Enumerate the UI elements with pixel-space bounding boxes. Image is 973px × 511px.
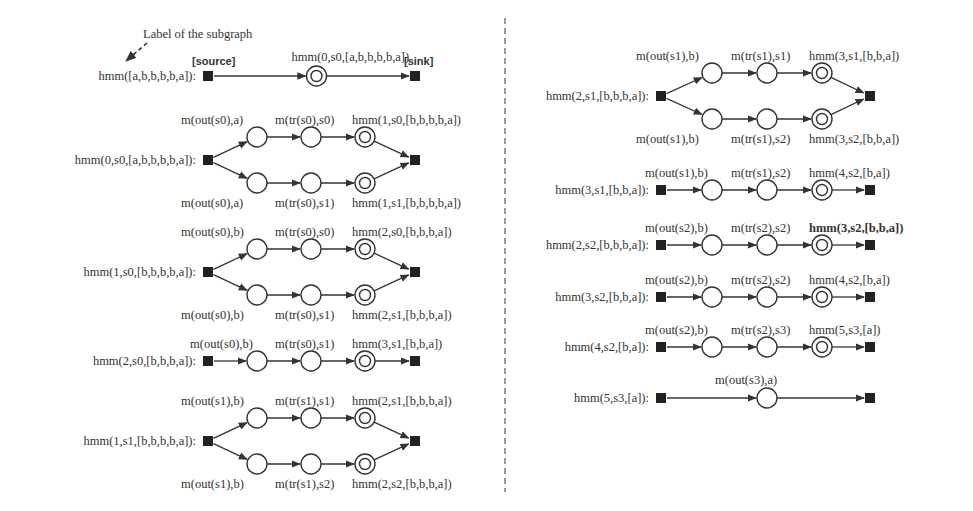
sink-node[interactable] — [865, 292, 875, 302]
subgraph-label: hmm(3,s1,[b,b,a]): — [555, 183, 649, 197]
out-node[interactable] — [702, 109, 722, 129]
subgraph-label: hmm(1,s1,[b,b,b,b,a]): — [84, 434, 196, 448]
out-node[interactable] — [757, 388, 777, 408]
node-label: m(tr(s0),s0) — [275, 225, 334, 239]
source-node[interactable] — [203, 71, 213, 81]
sink-node[interactable] — [410, 155, 420, 165]
subgraph-g9: hmm(4,s2,[b,a]):m(out(s2),b)m(tr(s2),s3)… — [565, 323, 881, 357]
source-node[interactable] — [203, 155, 213, 165]
source-node[interactable] — [203, 356, 213, 366]
source-node[interactable] — [203, 436, 213, 446]
edge-arrow — [831, 99, 864, 115]
source-node[interactable] — [656, 240, 666, 250]
node-label: m(out(s0),b) — [181, 308, 244, 322]
final-node[interactable] — [355, 454, 375, 474]
final-node[interactable] — [355, 408, 375, 428]
final-node[interactable] — [307, 66, 327, 86]
subgraph-g0: hmm([a,b,b,b,b,a]):hmm(0,s0,[a,b,b,b,b,a… — [98, 50, 420, 86]
subgraph-diagram: Label of the subgraph [source] [sink] hm… — [0, 0, 973, 511]
edge-arrow — [374, 163, 409, 179]
tr-node[interactable] — [757, 63, 777, 83]
tr-node[interactable] — [757, 180, 777, 200]
node-label: m(tr(s0),s1) — [275, 337, 334, 351]
out-node[interactable] — [702, 180, 722, 200]
out-node[interactable] — [702, 63, 722, 83]
subgraph-label: hmm([a,b,b,b,b,a]): — [98, 69, 196, 83]
final-node[interactable] — [812, 63, 832, 83]
sink-node[interactable] — [865, 91, 875, 101]
node-label: m(tr(s2),s2) — [731, 221, 790, 235]
source-node[interactable] — [656, 292, 666, 302]
tr-node[interactable] — [301, 285, 321, 305]
final-node[interactable] — [812, 235, 832, 255]
sink-node[interactable] — [865, 185, 875, 195]
node-label: m(tr(s1),s1) — [731, 49, 790, 63]
subgraph-g10: hmm(5,s3,[a]):m(out(s3),a) — [574, 373, 875, 408]
subgraph-label: hmm(2,s0,[b,b,b,a]): — [93, 354, 196, 368]
tr-node[interactable] — [757, 287, 777, 307]
subgraph-label: hmm(4,s2,[b,a]): — [565, 340, 649, 354]
out-node[interactable] — [247, 351, 267, 371]
source-node[interactable] — [203, 267, 213, 277]
edge-arrow — [213, 275, 247, 291]
out-node[interactable] — [702, 235, 722, 255]
final-node[interactable] — [812, 287, 832, 307]
out-node[interactable] — [247, 454, 267, 474]
final-node[interactable] — [355, 285, 375, 305]
subgraph-g5: hmm(2,s1,[b,b,b,a]):m(out(s1),b)m(tr(s1)… — [546, 49, 899, 146]
node-label: m(out(s1),b) — [636, 132, 699, 146]
final-node-label: hmm(2,s2,[b,b,b,a]) — [352, 477, 452, 491]
final-node[interactable] — [355, 239, 375, 259]
out-node[interactable] — [247, 408, 267, 428]
final-node[interactable] — [812, 180, 832, 200]
edge-arrow — [374, 253, 409, 269]
source-node[interactable] — [656, 393, 666, 403]
out-node[interactable] — [247, 285, 267, 305]
final-node[interactable] — [355, 127, 375, 147]
final-node[interactable] — [355, 351, 375, 371]
sink-node[interactable] — [410, 71, 420, 81]
node-label: m(out(s3),a) — [715, 373, 777, 387]
subgraph-label: hmm(5,s3,[a]): — [574, 391, 649, 405]
sink-node[interactable] — [410, 436, 420, 446]
sink-node[interactable] — [865, 342, 875, 352]
source-node[interactable] — [656, 91, 666, 101]
tr-node[interactable] — [301, 127, 321, 147]
final-node-label: hmm(2,s1,[b,b,b,a]) — [352, 308, 452, 322]
final-node-label: hmm(3,s2,[b,b,a]) — [809, 221, 903, 235]
sink-node[interactable] — [410, 356, 420, 366]
subgraph-list: hmm([a,b,b,b,b,a]):hmm(0,s0,[a,b,b,b,b,a… — [75, 49, 904, 491]
source-node[interactable] — [656, 185, 666, 195]
annotation-arrow-icon — [126, 43, 147, 61]
subgraph-g8: hmm(3,s2,[b,b,a]):m(out(s2),b)m(tr(s2),s… — [555, 273, 890, 307]
out-node[interactable] — [247, 239, 267, 259]
tr-node[interactable] — [301, 408, 321, 428]
edge-arrow — [213, 423, 247, 439]
out-node[interactable] — [702, 337, 722, 357]
node-label: m(tr(s1),s1) — [275, 394, 334, 408]
source-node[interactable] — [656, 342, 666, 352]
tr-node[interactable] — [301, 351, 321, 371]
node-label: m(tr(s2),s3) — [731, 323, 790, 337]
node-label: m(out(s1),b) — [645, 166, 708, 180]
out-node[interactable] — [702, 287, 722, 307]
final-node[interactable] — [355, 173, 375, 193]
tr-node[interactable] — [301, 454, 321, 474]
node-label: m(tr(s0),s0) — [275, 113, 334, 127]
tr-node[interactable] — [301, 173, 321, 193]
final-node[interactable] — [812, 109, 832, 129]
tr-node[interactable] — [757, 337, 777, 357]
sink-node[interactable] — [865, 393, 875, 403]
tr-node[interactable] — [757, 235, 777, 255]
tr-node[interactable] — [757, 109, 777, 129]
node-label: m(out(s2),b) — [645, 323, 708, 337]
node-label: m(tr(s2),s2) — [731, 273, 790, 287]
out-node[interactable] — [247, 127, 267, 147]
sink-node[interactable] — [410, 267, 420, 277]
node-label: m(tr(s1),s2) — [731, 166, 790, 180]
subgraph-g6: hmm(3,s1,[b,b,a]):m(out(s1),b)m(tr(s1),s… — [555, 166, 890, 200]
out-node[interactable] — [247, 173, 267, 193]
final-node[interactable] — [812, 337, 832, 357]
sink-node[interactable] — [865, 240, 875, 250]
tr-node[interactable] — [301, 239, 321, 259]
